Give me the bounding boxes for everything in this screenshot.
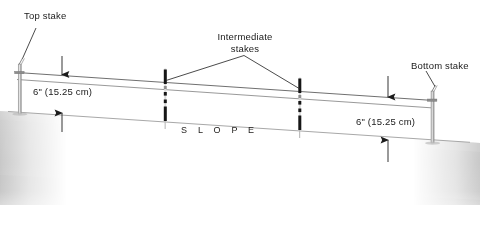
top-stake [12,58,27,116]
bottom-stake-label: Bottom stake [411,60,469,72]
intermediate-stakes-label-line1: Intermediate [217,31,272,42]
slope-label: S L O P E [181,125,258,137]
dimension-right-label: 6" (15.25 cm) [356,116,415,128]
top-stake-leader-line [23,28,37,59]
intermediate-stakes-label-line2: stakes [231,43,260,54]
intermediate-stake-1 [164,69,167,130]
intermediate-stakes-label: Intermediatestakes [205,31,285,54]
top-stake-label: Top stake [24,10,66,22]
bottom-stake [425,85,440,145]
intermediate-leader-right [244,56,300,90]
intermediate-leader-left [166,56,244,81]
figure-canvas: Top stake Intermediatestakes Bottom stak… [0,0,480,230]
dimension-left-label: 6" (15.25 cm) [33,86,92,98]
bottom-stake-leader-line [426,71,435,87]
intermediate-stake-2 [298,78,301,139]
